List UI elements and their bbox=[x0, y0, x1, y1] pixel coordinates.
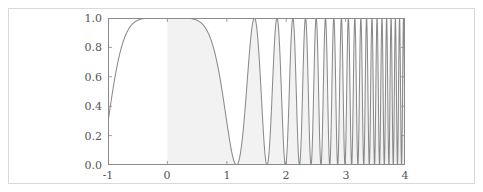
x-tick-label-3: 3 bbox=[335, 170, 357, 181]
x-tick-label-2: 2 bbox=[275, 170, 297, 181]
chart-svg bbox=[108, 18, 405, 165]
x-tick-label-4: 4 bbox=[394, 170, 416, 181]
y-tick-label-0-4: 0.4 bbox=[72, 101, 102, 112]
y-tick-label-0-6: 0.6 bbox=[72, 72, 102, 83]
y-tick-label-0-2: 0.2 bbox=[72, 131, 102, 142]
fill-region bbox=[167, 18, 405, 165]
x-tick-label-minus1: -1 bbox=[97, 170, 119, 181]
figure-canvas: 1.0 0.8 0.6 0.4 0.2 0.0 -1 0 1 2 3 4 bbox=[0, 0, 483, 192]
x-tick-label-1: 1 bbox=[216, 170, 238, 181]
x-tick-label-0: 0 bbox=[156, 170, 178, 181]
plot-area bbox=[108, 18, 405, 165]
y-tick-label-1-0: 1.0 bbox=[72, 13, 102, 24]
y-tick-label-0-8: 0.8 bbox=[72, 42, 102, 53]
